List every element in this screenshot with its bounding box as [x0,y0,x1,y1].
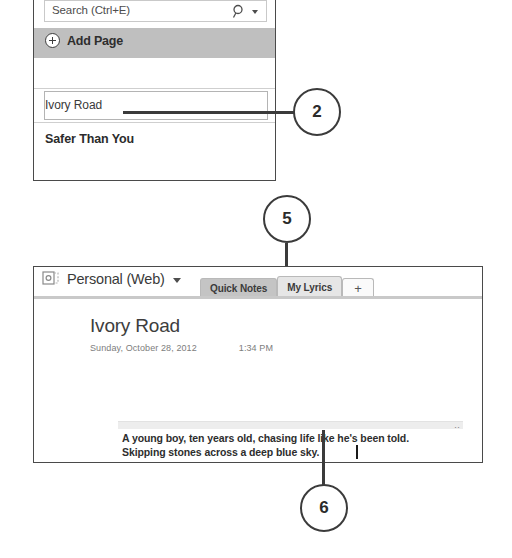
add-section-tab-button[interactable]: + [342,278,374,297]
notebook-bar: Personal (Web) Quick Notes My Lyrics + [34,267,482,297]
leader-line-to-callout-2 [123,111,295,114]
page-list-panel: Search (Ctrl+E) Add Page Ivory Road Safe… [33,0,276,181]
page-list-item-safer-than-you[interactable]: Safer Than You [34,123,275,157]
content-block-drag-handle[interactable]: ‥ [118,421,463,429]
page-datetime: Sunday, October 28, 2012 1:34 PM [90,343,273,353]
text-insertion-cursor [356,445,358,459]
section-tab-strip: Quick Notes My Lyrics + [200,275,374,297]
tab-quick-notes[interactable]: Quick Notes [200,278,277,297]
chevron-down-icon[interactable] [252,10,258,14]
search-placeholder-text: Search (Ctrl+E) [52,4,130,16]
content-block-resize-handle-icon[interactable]: ‥ [454,422,461,429]
notebook-name-label: Personal (Web) [67,271,165,287]
callout-marker-6: 6 [300,484,348,532]
page-date: Sunday, October 28, 2012 [90,343,197,353]
callout-marker-2: 2 [293,88,341,136]
page-time: 1:34 PM [239,343,273,353]
notebook-icon [42,270,61,287]
add-page-label: Add Page [67,34,123,48]
tab-my-lyrics[interactable]: My Lyrics [277,276,342,297]
page-item-label: Safer Than You [45,132,134,146]
note-content-block[interactable]: ‥ A young boy, ten years old, chasing li… [118,421,463,463]
search-icon[interactable] [232,4,246,19]
add-page-button[interactable]: Add Page [34,28,275,58]
page-list-item-ivory-road[interactable]: Ivory Road [34,89,275,123]
page-list-spacer [34,58,275,89]
chevron-down-icon[interactable] [173,278,181,283]
notebook-selector-button[interactable]: Personal (Web) [42,270,181,287]
page-canvas[interactable]: Ivory Road Sunday, October 28, 2012 1:34… [34,299,482,462]
onenote-window: Personal (Web) Quick Notes My Lyrics + I… [33,266,483,463]
page-title[interactable]: Ivory Road [90,315,180,337]
callout-marker-5: 5 [263,195,311,243]
note-text-line[interactable]: Skipping stones across a deep blue sky. [122,446,319,458]
note-text-line[interactable]: A young boy, ten years old, chasing life… [122,432,409,444]
page-item-label: Ivory Road [45,98,102,112]
leader-line-to-callout-6 [322,430,325,486]
search-input[interactable]: Search (Ctrl+E) [44,0,267,22]
plus-circle-icon [45,33,60,48]
search-row: Search (Ctrl+E) [34,0,275,28]
